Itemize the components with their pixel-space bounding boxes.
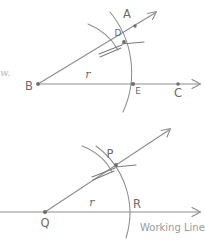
label-point-c: C <box>174 86 182 100</box>
upper-construction-arc-at-d <box>88 24 118 50</box>
point-dot-a <box>133 24 136 27</box>
upper-figure-group: B A D E C r <box>25 7 200 112</box>
geometry-diagram: B A D E C r <box>0 0 205 240</box>
lower-chord-marker-at-p <box>115 165 136 167</box>
label-radius-lower: r <box>89 196 95 209</box>
point-dot-p <box>114 163 118 167</box>
point-dot-b <box>36 82 40 86</box>
lower-figure-group: Q P R r Working Line <box>0 129 205 239</box>
label-point-a: A <box>123 7 131 21</box>
label-point-q: Q <box>40 216 49 230</box>
point-dot-d <box>122 40 126 44</box>
label-point-p: P <box>107 147 114 161</box>
margin-text-fragment: w. <box>0 67 11 78</box>
label-point-r: R <box>133 197 141 211</box>
label-radius-upper: r <box>85 68 91 81</box>
label-point-b: B <box>25 79 33 93</box>
construction-figure-canvas: B A D E C r <box>0 0 205 240</box>
label-point-d: D <box>115 28 122 38</box>
upper-main-arc-radius-r <box>110 12 132 112</box>
point-dot-q <box>43 210 47 214</box>
label-point-e: E <box>135 86 141 96</box>
label-working-line-caption: Working Line <box>140 222 205 233</box>
upper-ray-ba <box>38 13 155 84</box>
